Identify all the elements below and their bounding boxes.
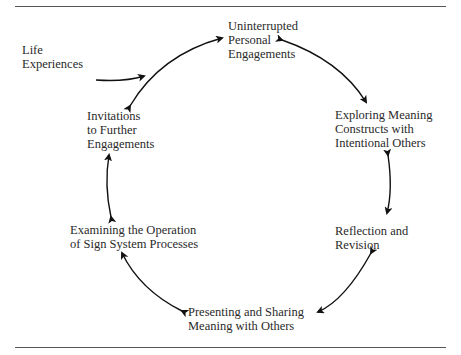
node-exploring-meaning-constructs: Exploring Meaning Constructs with Intent… <box>335 108 433 150</box>
node-invitations-further-engagements: Invitations to Further Engagements <box>87 109 154 151</box>
node-life-experiences: Life Experiences <box>22 43 83 71</box>
node-uninterrupted-personal-engagements: Uninterrupted Personal Engagements <box>228 19 298 61</box>
arrow-exploring-reflection <box>387 155 390 213</box>
node-presenting-and-sharing: Presenting and Sharing Meaning with Othe… <box>188 305 304 333</box>
arrow-presenting-examining <box>122 253 182 311</box>
node-reflection-and-revision: Reflection and Revision <box>335 224 408 252</box>
arrow-examining-invitations <box>107 155 111 217</box>
arrow-invitations-uninterrupted <box>130 38 222 106</box>
arrow-life-to-cycle <box>96 76 144 81</box>
node-examining-sign-systems: Examining the Operation of Sign System P… <box>70 223 198 251</box>
arrow-reflection-presenting <box>318 253 371 312</box>
